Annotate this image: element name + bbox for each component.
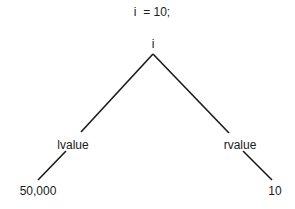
edge-lvalue-value bbox=[38, 151, 66, 180]
edge-root-rvalue bbox=[153, 54, 229, 133]
edge-rvalue-value bbox=[243, 151, 272, 180]
lvalue-value: 50,000 bbox=[20, 184, 57, 198]
root-node: i bbox=[152, 37, 155, 51]
tree-edges bbox=[0, 0, 295, 209]
rvalue-node: rvalue bbox=[224, 138, 257, 152]
lvalue-node: lvalue bbox=[57, 138, 88, 152]
rvalue-value: 10 bbox=[268, 184, 281, 198]
edge-root-lvalue bbox=[81, 54, 153, 132]
statement-title: i = 10; bbox=[134, 5, 170, 19]
